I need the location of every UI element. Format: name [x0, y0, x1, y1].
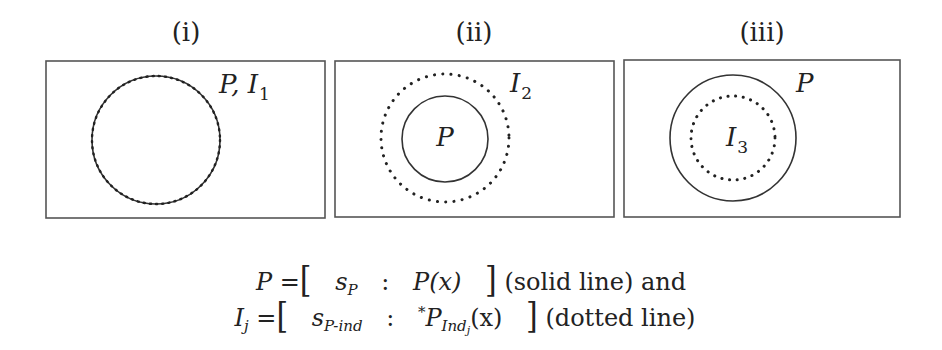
panel-i: (i) P, I1	[46, 17, 325, 218]
panel-iii-inner-label: I3	[725, 122, 748, 157]
eq1-lhs: P	[256, 268, 272, 296]
eq2-close-bracket: ]	[526, 295, 538, 335]
eq2-open-bracket: [	[276, 295, 288, 335]
panel-iii-caption: (iii)	[739, 17, 784, 47]
panel-ii-frame	[335, 61, 614, 217]
eq2-colon: :	[386, 304, 394, 332]
eq1-close-bracket: ]	[485, 259, 497, 299]
eq1-s: s	[335, 268, 347, 296]
eq2-fn: P	[425, 304, 441, 332]
panel-iii-outer-label-P: P	[795, 68, 814, 98]
eq1-equals: =	[280, 268, 300, 296]
eq2-note: (dotted line)	[545, 304, 695, 332]
panel-ii-outer-label: I2	[509, 68, 532, 103]
eq2-lhs: I	[235, 304, 244, 332]
eq2-fn-sub: Ind	[442, 317, 467, 335]
panel-i-caption: (i)	[172, 17, 201, 47]
eq1-note: (solid line) and	[504, 268, 686, 296]
legend-line-dotted: Ij =[ sP-ind : *PIndj(x) ] (dotted line)	[0, 298, 936, 337]
eq2-lhs-sub: j	[244, 317, 249, 335]
legend-line-solid: P =[ sP : P(x) ] (solid line) and	[0, 262, 942, 299]
panel-ii-caption: (ii)	[456, 17, 493, 47]
panel-ii: (ii) P I2	[335, 17, 614, 217]
panel-iii: (iii) P I3	[624, 17, 900, 217]
eq2-equals: =	[256, 304, 276, 332]
eq1-fn: P(x)	[413, 268, 461, 296]
eq2-s: s	[312, 304, 324, 332]
panel-i-frame	[46, 61, 325, 218]
eq2-s-sub: P-ind	[324, 317, 362, 335]
eq1-s-sub: P	[348, 281, 358, 299]
eq1-open-bracket: [	[300, 259, 312, 299]
panel-i-label: P, I1	[218, 69, 270, 104]
eq1-colon: :	[381, 268, 389, 296]
eq2-fn-arg: (x)	[470, 304, 502, 332]
panel-ii-inner-label-P: P	[435, 122, 454, 152]
